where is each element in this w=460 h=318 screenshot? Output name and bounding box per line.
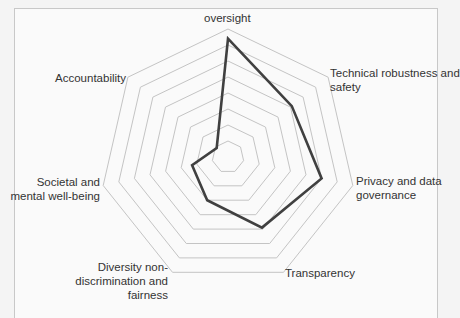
axis-label-oversight: oversight xyxy=(204,11,251,25)
axis-label-technical: Technical robustness and safety xyxy=(330,66,460,94)
axis-label-privacy: Privacy and data governance xyxy=(356,174,442,202)
radar-grid xyxy=(103,29,353,272)
axis-label-line: Privacy and data xyxy=(356,174,442,188)
axis-label-transparency: Transparency xyxy=(285,266,355,280)
axis-label-line: Technical robustness and xyxy=(330,66,460,80)
axis-label-line: mental well-being xyxy=(11,189,101,203)
axis-label-line: safety xyxy=(330,80,460,94)
axis-label-line: Societal and xyxy=(11,175,101,189)
grid-ring xyxy=(134,61,321,244)
grid-ring xyxy=(181,109,275,200)
axis-label-line: Diversity non- xyxy=(75,260,168,274)
axis-label-diversity: Diversity non- discrimination and fairne… xyxy=(75,260,168,302)
axis-label-line: discrimination and xyxy=(75,274,168,288)
axis-label-line: fairness xyxy=(75,288,168,302)
axis-label-line: governance xyxy=(356,188,442,202)
axis-label-accountability: Accountability xyxy=(55,71,126,85)
axis-label-societal: Societal and mental well-being xyxy=(11,175,101,203)
grid-ring xyxy=(150,77,306,229)
